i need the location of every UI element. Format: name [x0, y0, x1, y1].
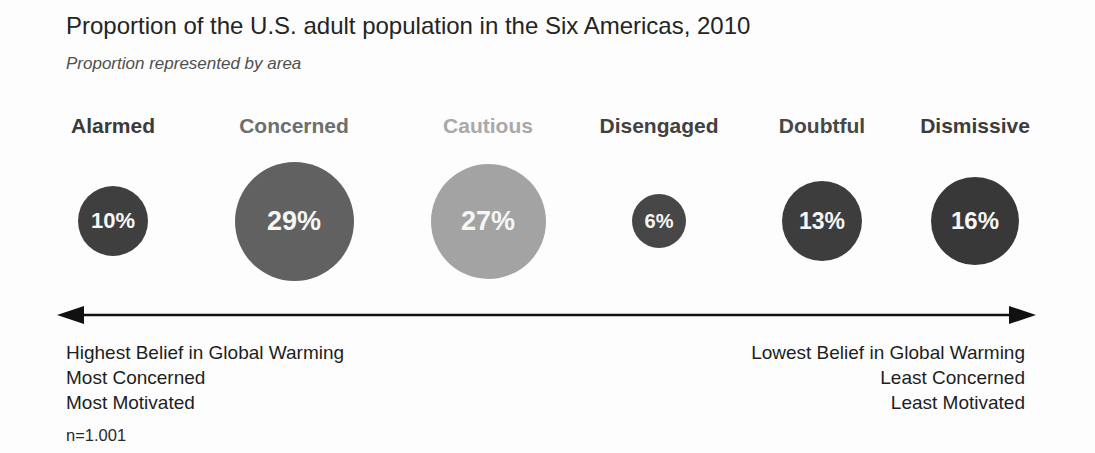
segment-bubble-disengaged: 6%: [632, 194, 686, 248]
segment-label-alarmed: Alarmed: [71, 114, 155, 138]
segment-label-doubtful: Doubtful: [779, 114, 865, 138]
segment-label-concerned: Concerned: [239, 114, 349, 138]
segment-value-dismissive: 16%: [951, 207, 999, 235]
axis-note-right-line-1: Lowest Belief in Global Warming: [751, 340, 1025, 365]
axis-note-left: Highest Belief in Global Warming Most Co…: [66, 340, 344, 415]
segment-bubble-alarmed: 10%: [78, 186, 148, 256]
segment-bubble-concerned: 29%: [235, 162, 354, 281]
segment-bubble-dismissive: 16%: [931, 177, 1019, 265]
axis-note-right-line-2: Least Concerned: [751, 365, 1025, 390]
segment-label-disengaged: Disengaged: [599, 114, 718, 138]
segment-bubble-cautious: 27%: [431, 164, 546, 279]
segment-value-alarmed: 10%: [91, 208, 135, 234]
belief-spectrum-arrow-icon: [0, 299, 1095, 333]
axis-note-left-line-3: Most Motivated: [66, 390, 344, 415]
sample-size-note: n=1.001: [66, 426, 126, 445]
axis-note-right-line-3: Least Motivated: [751, 390, 1025, 415]
segment-label-dismissive: Dismissive: [920, 114, 1030, 138]
arrow-left-head-icon: [57, 306, 84, 324]
segment-value-concerned: 29%: [267, 206, 321, 237]
segment-label-cautious: Cautious: [443, 114, 533, 138]
segment-bubble-doubtful: 13%: [782, 181, 862, 261]
six-americas-chart: Proportion of the U.S. adult population …: [0, 0, 1095, 453]
segment-value-doubtful: 13%: [799, 208, 845, 235]
arrow-right-head-icon: [1009, 306, 1036, 324]
segment-value-disengaged: 6%: [645, 210, 674, 233]
axis-note-left-line-1: Highest Belief in Global Warming: [66, 340, 344, 365]
axis-note-right: Lowest Belief in Global Warming Least Co…: [751, 340, 1025, 415]
axis-note-left-line-2: Most Concerned: [66, 365, 344, 390]
segment-value-cautious: 27%: [461, 206, 515, 237]
